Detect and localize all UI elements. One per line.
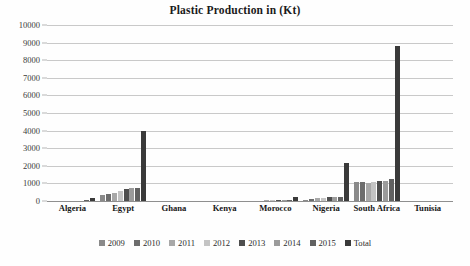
bar: [377, 181, 382, 201]
y-axis-tick-label: 6000: [23, 90, 40, 100]
x-axis-category-label: Nigeria: [301, 203, 352, 214]
bar-group: [199, 25, 250, 201]
bar: [366, 183, 371, 201]
x-axis-category-label: Tunisia: [402, 203, 453, 214]
y-axis-tick-label: 7000: [23, 73, 40, 83]
legend-swatch-icon: [134, 240, 140, 246]
bar-group: [301, 25, 352, 201]
x-axis-category-label: Egypt: [98, 203, 149, 214]
y-axis-tick-label: 8000: [23, 55, 40, 65]
legend-item[interactable]: 2014: [274, 238, 300, 248]
legend-item[interactable]: 2010: [134, 238, 160, 248]
legend-label: Total: [354, 238, 372, 248]
y-axis-tick-label: 5000: [23, 108, 40, 118]
legend-item[interactable]: 2009: [99, 238, 125, 248]
legend-swatch-icon: [99, 240, 105, 246]
x-axis-labels: AlgeriaEgyptGhanaKenyaMoroccoNigeriaSout…: [47, 203, 453, 229]
bar-group: [47, 25, 98, 201]
legend-item[interactable]: 2015: [310, 238, 336, 248]
bar: [360, 182, 365, 201]
x-axis-category-label: Kenya: [199, 203, 250, 214]
legend-label: 2010: [143, 238, 160, 248]
x-axis-category-label: Ghana: [149, 203, 200, 214]
y-axis-tick-label: 10000: [19, 20, 40, 30]
bar: [124, 189, 129, 201]
bar: [135, 188, 140, 201]
legend-swatch-icon: [169, 240, 175, 246]
bar: [354, 182, 359, 201]
bar: [106, 194, 111, 201]
x-axis-category-label: South Africa: [352, 203, 403, 214]
bar: [389, 179, 394, 201]
bar-group: [352, 25, 403, 201]
legend-swatch-icon: [345, 240, 351, 246]
chart-legend: 2009201020112012201320142015Total: [0, 238, 470, 248]
bar: [141, 131, 146, 201]
legend-swatch-icon: [274, 240, 280, 246]
legend-label: 2014: [283, 238, 300, 248]
y-axis-tick-label: 3000: [23, 143, 40, 153]
chart-title: Plastic Production in (Kt): [0, 4, 470, 16]
bar-group: [98, 25, 149, 201]
bar-groups: [47, 25, 453, 201]
legend-label: 2011: [178, 238, 195, 248]
bar: [383, 181, 388, 201]
bar: [118, 191, 123, 201]
bar: [371, 182, 376, 201]
legend-label: 2013: [248, 238, 265, 248]
legend-swatch-icon: [204, 240, 210, 246]
y-axis-tick-label: 4000: [23, 126, 40, 136]
legend-item[interactable]: 2012: [204, 238, 230, 248]
y-axis-tick-label: 1000: [23, 178, 40, 188]
bar: [395, 46, 400, 201]
chart-container: Plastic Production in (Kt) 1000090008000…: [0, 0, 470, 266]
legend-swatch-icon: [239, 240, 245, 246]
y-axis-tick-label: 9000: [23, 38, 40, 48]
bar: [112, 193, 117, 201]
y-axis: 1000090008000700060005000400030002000100…: [0, 25, 47, 201]
y-axis-tick-label: 2000: [23, 161, 40, 171]
y-axis-tick-label: 0: [36, 196, 40, 206]
axis-baseline: [47, 201, 453, 202]
bar-group: [250, 25, 301, 201]
bar-group: [402, 25, 453, 201]
legend-item[interactable]: 2013: [239, 238, 265, 248]
x-axis-category-label: Algeria: [47, 203, 98, 214]
bar: [129, 188, 134, 201]
bar: [344, 163, 349, 201]
legend-label: 2012: [213, 238, 230, 248]
plot-area: [47, 25, 453, 201]
legend-swatch-icon: [310, 240, 316, 246]
x-axis-category-label: Morocco: [250, 203, 301, 214]
legend-label: 2015: [319, 238, 336, 248]
legend-label: 2009: [108, 238, 125, 248]
legend-item[interactable]: Total: [345, 238, 372, 248]
legend-item[interactable]: 2011: [169, 238, 195, 248]
bar-group: [149, 25, 200, 201]
